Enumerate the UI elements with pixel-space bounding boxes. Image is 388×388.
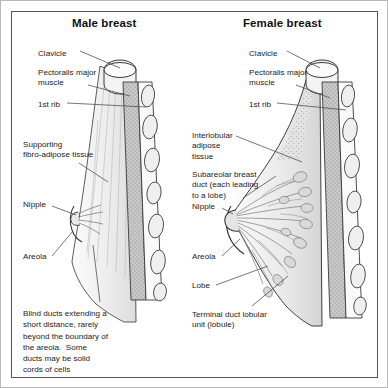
label-male-pectoralis-major-muscle: Pectoralis major muscle [38, 68, 96, 89]
label-female-subareolar-breast-duct: Subareolar breast duct (each leading to … [192, 170, 258, 201]
label-male-areola: Areola [23, 252, 46, 262]
breast-anatomy-figure: Male breast Female breast Clavicle Pecto… [0, 0, 388, 388]
label-male-first-rib: 1st rib [38, 100, 60, 110]
leader-male-nipple [52, 206, 76, 215]
leader-male-areola [52, 231, 73, 256]
male-anatomy-group [70, 60, 167, 322]
label-female-nipple: Nipple [192, 202, 215, 212]
label-female-lobe: Lobe [192, 281, 210, 291]
leader-female-clavicle [287, 51, 320, 68]
label-female-pectoralis-major-muscle: Pectoralis major muscle [249, 68, 307, 89]
female-interlobular-adipose-tissue [231, 80, 322, 326]
caption-male-blind-ducts: Blind ducts extending a short distance, … [23, 308, 108, 376]
label-female-first-rib: 1st rib [249, 100, 271, 110]
label-male-clavicle: Clavicle [38, 49, 66, 59]
label-female-terminal-duct-lobular-unit: Terminal duct lobular unit (lobule) [192, 310, 267, 331]
panel-title-male: Male breast [72, 17, 136, 29]
label-female-clavicle: Clavicle [249, 49, 277, 59]
label-female-interlobular-adipose-tissue: Interlobular adipose tissue [192, 131, 233, 162]
leader-male-clavicle [80, 51, 120, 68]
label-male-nipple: Nipple [23, 200, 46, 210]
label-female-areola: Areola [192, 252, 215, 262]
leader-female-lobe [216, 266, 268, 285]
female-lobule [301, 204, 313, 213]
panel-title-female: Female breast [243, 17, 322, 29]
label-male-supporting-fibro-adipose-tissue: Supporting fibro-adipose tissue [23, 140, 93, 161]
